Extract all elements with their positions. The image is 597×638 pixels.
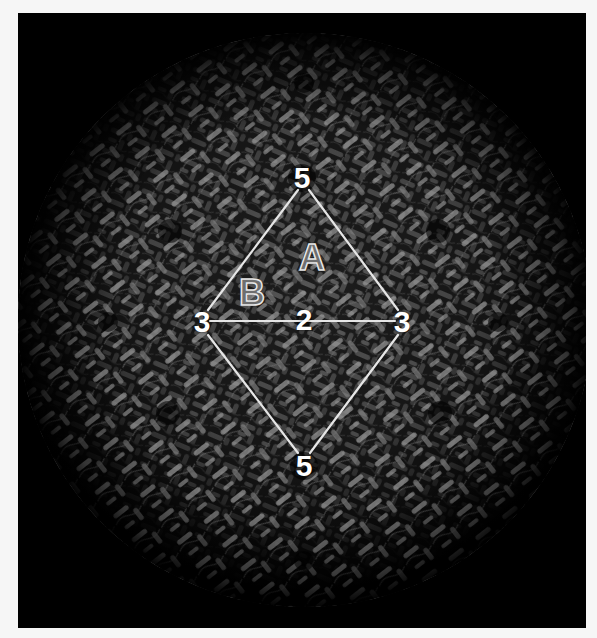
axis-label-fivefold-top: 5 — [287, 163, 317, 193]
capsid-figure: 5 3 2 3 5 A B — [18, 13, 586, 628]
unit-label-a: A — [292, 240, 332, 276]
unit-label-b: B — [232, 275, 272, 311]
axis-label-threefold-left: 3 — [187, 307, 217, 337]
axis-label-twofold-center: 2 — [289, 305, 319, 335]
axis-label-threefold-right: 3 — [387, 307, 417, 337]
axis-label-fivefold-bottom: 5 — [289, 451, 319, 481]
